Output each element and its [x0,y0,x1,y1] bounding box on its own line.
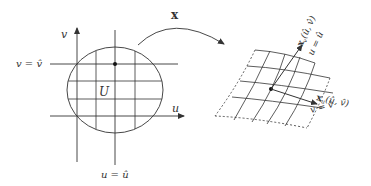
map-x: x [138,8,224,45]
map-label-x: x [171,8,179,22]
surface-patch [215,50,333,128]
label-v-equals-vhat: v = v̂ [16,58,42,69]
region-label-U: U [99,85,110,99]
map-arrow [138,28,224,45]
label-u-equals-uhat: u = û [101,169,129,180]
v-axis-label: v [61,28,68,41]
tangent-vector-xv [271,45,302,89]
surface-parametrization-diagram: v u U v = v̂ u = û x xv(û, v̂) u = [0,0,371,186]
label-v-equals-vhat-surface: v = v̂ [309,99,334,115]
u-axis-label: u [172,102,179,115]
domain-point [113,62,117,66]
parameter-domain: v u U v = v̂ u = û [16,28,184,180]
